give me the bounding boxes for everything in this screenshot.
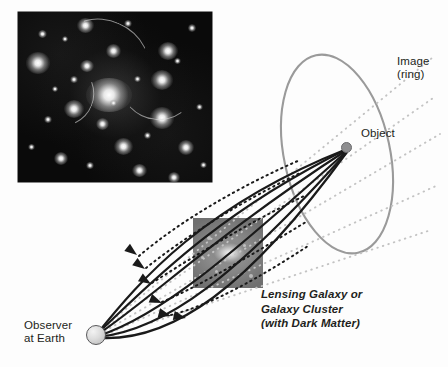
object-label: Object [361, 127, 395, 140]
observer-earth-marker [86, 325, 106, 345]
arrowhead [138, 273, 153, 287]
observer-at-earth-label: Observer at Earth [24, 319, 72, 346]
ray-direction-arrowheads [124, 244, 187, 323]
arrowhead [132, 258, 148, 273]
object-source-marker [341, 142, 352, 153]
lensing-vector-layer [0, 0, 448, 367]
lensing-galaxy-label: Lensing Galaxy or Galaxy Cluster (with D… [261, 287, 362, 331]
image-ring-label: Image (ring) [397, 55, 429, 82]
lensing-diagram: Image (ring) Object Observer at Earth Le… [0, 0, 448, 367]
arrowhead [124, 244, 140, 259]
